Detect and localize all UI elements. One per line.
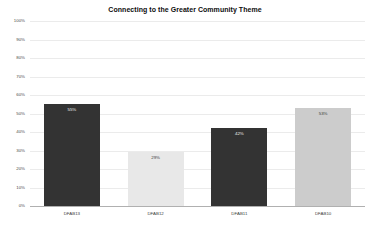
y-axis-tick-label: 40% bbox=[16, 130, 25, 134]
x-axis-tick-label: DFAB12 bbox=[114, 212, 198, 216]
x-axis-tick-label: DFAB11 bbox=[198, 212, 282, 216]
bar-chart-figure: Connecting to the Greater Community Them… bbox=[0, 0, 370, 230]
chart-title: Connecting to the Greater Community Them… bbox=[0, 6, 370, 13]
axis-baseline bbox=[30, 206, 365, 207]
y-axis-tick-label: 10% bbox=[16, 185, 25, 189]
y-axis-tick-label: 30% bbox=[16, 148, 25, 152]
y-axis: 0%10%20%30%40%50%60%70%80%90%100% bbox=[0, 21, 28, 206]
bar[interactable]: 29% bbox=[128, 152, 184, 206]
plot-area: 55%29%42%53% bbox=[30, 21, 365, 206]
y-axis-tick-label: 60% bbox=[16, 93, 25, 97]
x-axis: DFAB13DFAB12DFAB11DFAB10 bbox=[30, 209, 365, 223]
bars-group: 55%29%42%53% bbox=[30, 21, 365, 206]
y-axis-tick-label: 0% bbox=[19, 204, 25, 208]
y-axis-tick-label: 50% bbox=[16, 111, 25, 115]
bar-value-label: 42% bbox=[211, 132, 267, 136]
bar-value-label: 53% bbox=[295, 112, 351, 116]
x-axis-tick-label: DFAB10 bbox=[281, 212, 365, 216]
bar-value-label: 29% bbox=[128, 156, 184, 160]
bar-value-label: 55% bbox=[44, 108, 100, 112]
bar[interactable]: 55% bbox=[44, 104, 100, 206]
bar[interactable]: 53% bbox=[295, 108, 351, 206]
y-axis-tick-label: 90% bbox=[16, 37, 25, 41]
y-axis-tick-label: 100% bbox=[14, 19, 25, 23]
y-axis-tick-label: 80% bbox=[16, 56, 25, 60]
y-axis-tick-label: 20% bbox=[16, 167, 25, 171]
y-axis-tick-label: 70% bbox=[16, 74, 25, 78]
x-axis-tick-label: DFAB13 bbox=[30, 212, 114, 216]
bar[interactable]: 42% bbox=[211, 128, 267, 206]
